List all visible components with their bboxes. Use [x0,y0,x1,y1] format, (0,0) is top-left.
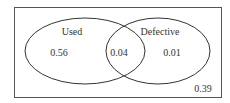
defective-set-label: Defective [141,27,180,37]
used-only-value: 0.56 [50,48,68,58]
intersection-value: 0.04 [110,48,128,58]
outside-value: 0.39 [194,84,212,94]
used-set-label: Used [62,27,83,37]
defective-only-value: 0.01 [163,48,181,58]
